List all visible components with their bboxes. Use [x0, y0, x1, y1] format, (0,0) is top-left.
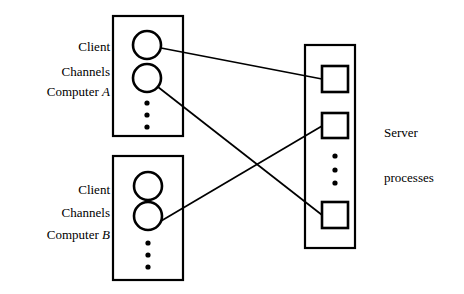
server-process-1: [322, 66, 348, 92]
label-client-b-variable: B: [102, 227, 110, 242]
ellipsis-dot: [145, 252, 150, 257]
figure-canvas: Client Computer A Channels Client Comput…: [0, 0, 464, 294]
label-client-b-line1: Client: [8, 182, 110, 197]
ellipsis-dot: [144, 124, 149, 129]
ellipsis-dot: [145, 264, 150, 269]
label-client-a-line2: Computer A: [8, 84, 110, 99]
label-client-a-line1: Client: [8, 39, 110, 54]
ellipsis-dot: [332, 153, 337, 158]
ellipsis-dot: [145, 240, 150, 245]
ellipsis-dot: [144, 112, 149, 117]
connection-line-a1-to-server1: [161, 48, 322, 79]
label-server-processes: Server processes: [384, 95, 462, 215]
label-server-line2: processes: [384, 170, 462, 185]
client-a-channel-2: [133, 64, 161, 92]
server-process-3: [322, 202, 348, 228]
ellipsis-dot: [332, 180, 337, 185]
label-client-b-line2: Computer B: [8, 227, 110, 242]
client-b-channel-1: [134, 172, 162, 200]
label-channels-b: Channels: [8, 205, 110, 220]
server-process-2: [322, 113, 348, 138]
client-b-channel-2: [134, 202, 162, 230]
label-client-a-prefix: Computer: [47, 84, 102, 99]
client-a-channel-1: [133, 31, 161, 59]
label-server-line1: Server: [384, 125, 462, 140]
connection-line-b2-to-server2: [161, 126, 322, 221]
client-a-vertical-ellipsis: [144, 100, 149, 129]
label-client-a-variable: A: [102, 84, 110, 99]
client-b-vertical-ellipsis: [145, 240, 150, 269]
ellipsis-dot: [332, 167, 337, 172]
ellipsis-dot: [144, 100, 149, 105]
label-client-b-prefix: Computer: [47, 227, 102, 242]
label-channels-a: Channels: [8, 64, 110, 79]
